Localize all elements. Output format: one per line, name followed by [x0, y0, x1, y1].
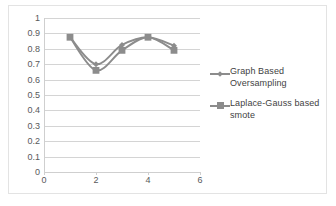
- data-point-marker: [145, 34, 152, 41]
- y-tick-label: 0.7: [27, 60, 40, 69]
- x-tick-mark: [148, 172, 149, 175]
- data-point-marker: [93, 67, 100, 74]
- legend-marker-diamond-icon: [210, 68, 230, 79]
- x-tick-label: 0: [41, 176, 46, 185]
- y-tick-label: 0.5: [27, 91, 40, 100]
- x-tick-mark: [200, 172, 201, 175]
- x-axis-line: [44, 172, 201, 173]
- chart-legend: Graph Based Oversampling Laplace-Gauss b…: [210, 66, 332, 130]
- x-tick-label: 2: [93, 176, 98, 185]
- x-tick-label: 6: [197, 176, 202, 185]
- data-point-marker: [119, 47, 126, 54]
- legend-entry-graph-based-oversampling[interactable]: Graph Based Oversampling: [210, 66, 332, 89]
- data-point-marker: [93, 61, 99, 67]
- series-plot: [44, 18, 200, 172]
- legend-label-graph-based-oversampling: Graph Based Oversampling: [230, 66, 332, 89]
- chart-container: 10.90.80.70.60.50.40.30.20.10 0246 Graph…: [0, 0, 336, 206]
- y-tick-label: 0.6: [27, 75, 40, 84]
- y-tick-label: 0.3: [27, 121, 40, 130]
- legend-marker-square-icon: [210, 100, 230, 111]
- y-tick-label: 0: [35, 168, 40, 177]
- x-axis-tick-labels: 0246: [44, 176, 201, 192]
- y-tick-label: 0.8: [27, 44, 40, 53]
- legend-label-laplace-gauss-based-smote: Laplace-Gauss based smote: [230, 98, 332, 121]
- y-tick-label: 0.4: [27, 106, 40, 115]
- legend-entry-laplace-gauss-based-smote[interactable]: Laplace-Gauss based smote: [210, 98, 332, 121]
- y-tick-label: 0.2: [27, 137, 40, 146]
- y-axis-tick-labels: 10.90.80.70.60.50.40.30.20.10: [14, 18, 40, 172]
- y-tick-label: 0.1: [27, 152, 40, 161]
- x-tick-mark: [96, 172, 97, 175]
- x-tick-mark: [44, 172, 45, 175]
- data-point-marker: [67, 34, 74, 41]
- y-tick-label: 1: [35, 14, 40, 23]
- data-point-marker: [171, 47, 178, 54]
- x-tick-label: 4: [145, 176, 150, 185]
- y-tick-label: 0.9: [27, 29, 40, 38]
